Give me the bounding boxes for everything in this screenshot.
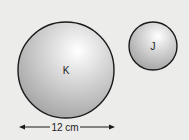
sphere-j: J	[129, 22, 177, 70]
arrow-right-icon	[109, 125, 115, 130]
dimension-label: 12 cm	[51, 122, 78, 133]
sphere-k: K	[18, 22, 114, 118]
sphere-k-label: K	[63, 65, 70, 76]
dimension-arrow: 12 cm	[19, 122, 115, 133]
arrow-left-icon	[19, 125, 25, 130]
sphere-j-label: J	[151, 41, 156, 52]
circles-diagram: K J 12 cm	[0, 0, 189, 140]
